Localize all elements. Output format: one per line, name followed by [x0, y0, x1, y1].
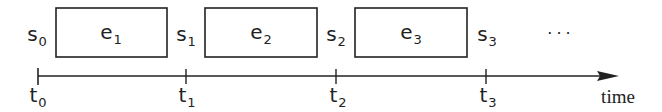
event-label-e2: e2 — [250, 22, 272, 42]
state-label-s2: s2 — [326, 24, 346, 44]
state-base: s — [477, 22, 487, 46]
tick-subscript: 2 — [338, 95, 346, 110]
event-label-e3: e3 — [400, 22, 422, 42]
event-subscript: 2 — [264, 32, 272, 47]
tick-base: t — [479, 83, 487, 107]
event-base: e — [250, 20, 262, 44]
state-label-s1: s1 — [176, 24, 196, 44]
timeline-diagram: s0 s1 s2 s3 e1 e2 e3 ··· t0 t1 t2 t3 tim… — [0, 0, 662, 112]
state-label-s0: s0 — [27, 24, 47, 44]
tick-label-t3: t3 — [479, 85, 496, 105]
state-subscript: 2 — [338, 34, 346, 49]
state-subscript: 1 — [188, 34, 196, 49]
axis-label-time: time — [601, 87, 635, 106]
event-subscript: 1 — [114, 32, 122, 47]
tick-label-t2: t2 — [329, 85, 346, 105]
tick-base: t — [178, 83, 186, 107]
state-base: s — [176, 22, 186, 46]
state-subscript: 3 — [489, 34, 497, 49]
tick-base: t — [329, 83, 337, 107]
state-label-s3: s3 — [477, 24, 497, 44]
tick-base: t — [29, 83, 37, 107]
tick-subscript: 3 — [488, 95, 496, 110]
event-base: e — [100, 20, 112, 44]
tick-label-t1: t1 — [178, 85, 195, 105]
tick-subscript: 1 — [187, 95, 195, 110]
tick-label-t0: t0 — [29, 85, 46, 105]
event-base: e — [400, 20, 412, 44]
state-base: s — [326, 22, 336, 46]
time-axis-arrowhead — [597, 71, 619, 81]
event-label-e1: e1 — [100, 22, 122, 42]
state-subscript: 0 — [39, 34, 47, 49]
state-base: s — [27, 22, 37, 46]
event-subscript: 3 — [414, 32, 422, 47]
tick-subscript: 0 — [38, 95, 46, 110]
continuation-ellipsis: ··· — [547, 26, 574, 42]
